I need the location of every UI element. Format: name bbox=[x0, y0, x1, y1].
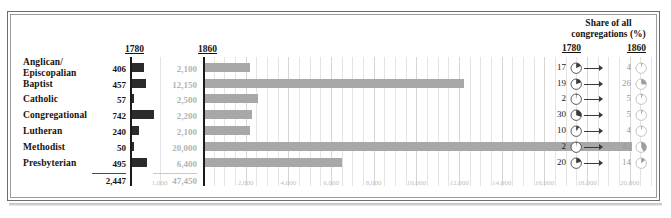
gridline-1860 bbox=[459, 57, 460, 186]
bar-1780 bbox=[132, 126, 139, 135]
bar-1780 bbox=[132, 158, 147, 167]
bar-1860 bbox=[205, 142, 632, 151]
gridline-1860 bbox=[384, 57, 385, 186]
pie-chart-1860 bbox=[635, 125, 647, 137]
tick-label-1860: 2,000 bbox=[224, 179, 268, 187]
bar-1860 bbox=[205, 63, 250, 72]
gridline-1860 bbox=[406, 57, 407, 186]
pie-chart-1860 bbox=[635, 109, 647, 121]
bar-1860 bbox=[205, 158, 342, 167]
share-value-1860: 42 bbox=[603, 141, 631, 151]
gridline-1860 bbox=[342, 57, 343, 186]
arrow-icon bbox=[584, 160, 604, 167]
share-value-1860: 14 bbox=[603, 157, 631, 167]
share-value-1780: 17 bbox=[538, 62, 566, 72]
share-panel-subtitle: congregations (%) bbox=[539, 29, 671, 40]
gridline-1860 bbox=[416, 57, 417, 186]
bar-1780 bbox=[132, 63, 144, 72]
arrow-icon bbox=[584, 128, 604, 135]
row-label: Catholic bbox=[23, 94, 58, 104]
gridline-1860 bbox=[491, 57, 492, 186]
gridline-1860 bbox=[438, 57, 439, 186]
row-label: Anglican/ bbox=[23, 57, 63, 67]
share-value-1780: 19 bbox=[538, 78, 566, 88]
tick-label-1780: 1,000 bbox=[140, 179, 180, 187]
tick-label-1860: 14,000 bbox=[480, 179, 524, 187]
pie-chart-1860 bbox=[635, 62, 647, 74]
gridline-1860 bbox=[587, 57, 588, 186]
value-1780: 57 bbox=[90, 95, 126, 105]
value-1860: 2,100 bbox=[151, 127, 197, 137]
share-header-1860: 1860 bbox=[627, 43, 646, 53]
gridline-1860 bbox=[480, 57, 481, 186]
tick-label-1860: 10,000 bbox=[394, 179, 438, 187]
value-1860: 20,000 bbox=[151, 143, 197, 153]
column-header-1780: 1780 bbox=[125, 44, 144, 54]
tick-label-1860: 16,000 bbox=[522, 179, 566, 187]
pie-chart-1780 bbox=[570, 93, 582, 105]
value-1860: 2,100 bbox=[151, 64, 197, 74]
arrow-icon bbox=[584, 96, 604, 103]
tick-label-1860: 6,000 bbox=[309, 179, 353, 187]
share-value-1860: 4 bbox=[603, 125, 631, 135]
value-1780: 406 bbox=[90, 64, 126, 74]
value-1780: 240 bbox=[90, 127, 126, 137]
arrow-icon bbox=[584, 65, 604, 72]
row-label: Methodist bbox=[23, 142, 65, 152]
pie-chart-1780 bbox=[570, 109, 582, 121]
gridline-1860 bbox=[523, 57, 524, 186]
gridline-1860 bbox=[363, 57, 364, 186]
value-1860: 2,200 bbox=[151, 111, 197, 121]
pie-chart-1780 bbox=[570, 78, 582, 90]
gridline-1860 bbox=[427, 57, 428, 186]
value-1780: 50 bbox=[90, 143, 126, 153]
column-header-1860: 1860 bbox=[198, 44, 217, 54]
share-value-1860: 5 bbox=[603, 109, 631, 119]
value-1860: 6,400 bbox=[151, 159, 197, 169]
total-rule-1860 bbox=[153, 173, 197, 174]
share-panel-title: Share of all bbox=[539, 18, 671, 29]
gridline-1860 bbox=[651, 57, 652, 186]
row-label: Presbyterian bbox=[23, 158, 76, 168]
bar-1860 bbox=[205, 79, 464, 88]
gridline-1860 bbox=[395, 57, 396, 186]
row-label: Congregational bbox=[23, 110, 87, 120]
tick-label-1860: 4,000 bbox=[266, 179, 310, 187]
gridline-1860 bbox=[598, 57, 599, 186]
value-1780: 742 bbox=[90, 111, 126, 121]
gridline-1860 bbox=[512, 57, 513, 186]
share-value-1780: 10 bbox=[538, 125, 566, 135]
bar-1780 bbox=[132, 94, 134, 103]
frame-shadow bbox=[9, 203, 662, 206]
value-1860: 2,500 bbox=[151, 95, 197, 105]
arrow-icon bbox=[584, 112, 604, 119]
pie-chart-1860 bbox=[635, 93, 647, 105]
row-label: Episcopalian bbox=[23, 68, 76, 78]
gridline-1860 bbox=[352, 57, 353, 186]
arrow-icon bbox=[584, 81, 604, 88]
pie-chart-1780 bbox=[570, 62, 582, 74]
gridline-1860 bbox=[534, 57, 535, 186]
share-value-1860: 4 bbox=[603, 62, 631, 72]
pie-chart-1860 bbox=[635, 78, 647, 90]
gridline-1860 bbox=[470, 57, 471, 186]
value-1780: 495 bbox=[90, 159, 126, 169]
share-value-1780: 20 bbox=[538, 157, 566, 167]
bar-1780 bbox=[132, 142, 134, 151]
gridline-1860 bbox=[448, 57, 449, 186]
bar-1780 bbox=[132, 110, 154, 119]
share-header-1780: 1780 bbox=[562, 43, 581, 53]
bar-1860 bbox=[205, 94, 258, 103]
tick-label-1860: 8,000 bbox=[352, 179, 396, 187]
pie-chart-1780 bbox=[570, 141, 582, 153]
value-1860: 12,150 bbox=[151, 80, 197, 90]
share-value-1860: 26 bbox=[603, 78, 631, 88]
share-value-1780: 30 bbox=[538, 109, 566, 119]
tick-label-1860: 18,000 bbox=[565, 179, 609, 187]
share-value-1780: 2 bbox=[538, 141, 566, 151]
bar-1860 bbox=[205, 110, 252, 119]
row-label: Baptist bbox=[23, 79, 53, 89]
share-value-1860: 5 bbox=[603, 93, 631, 103]
gridline-1860 bbox=[502, 57, 503, 186]
arrow-icon bbox=[584, 144, 604, 151]
